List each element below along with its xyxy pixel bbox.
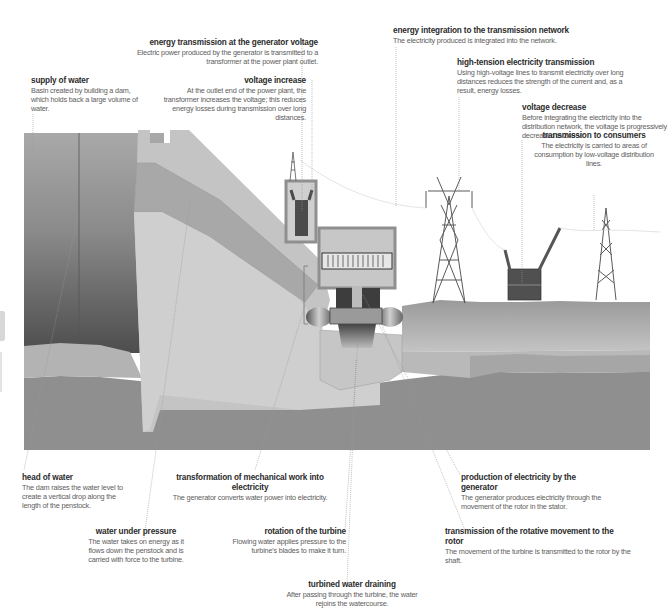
label-production-electricity: production of electricity by the generat… xyxy=(461,473,611,511)
label-title: voltage increase xyxy=(150,76,306,86)
label-desc: The electricity produced is integrated i… xyxy=(393,36,573,45)
label-transmission-consumers: transmission to consumers The electricit… xyxy=(530,131,658,168)
label-title: rotation of the turbine xyxy=(228,527,346,537)
label-desc: Basin created by building a dam, which h… xyxy=(31,86,143,113)
ground-right xyxy=(402,300,650,378)
label-desc: Using high-voltage lines to transmit ele… xyxy=(457,68,635,95)
label-desc: At the outlet end of the power plant, th… xyxy=(150,86,306,122)
transformer-house xyxy=(286,181,316,242)
label-title: voltage decrease xyxy=(522,103,672,113)
label-title: energy integration to the transmission n… xyxy=(393,26,573,36)
scroll-case-left xyxy=(306,307,332,327)
label-title: high-tension electricity transmission xyxy=(457,58,635,68)
label-voltage-increase: voltage increase At the outlet end of th… xyxy=(150,76,306,122)
label-title: supply of water xyxy=(31,76,143,86)
generator xyxy=(322,253,392,269)
high-tension-pylon xyxy=(426,177,472,303)
label-turbined-water: turbined water draining After passing th… xyxy=(280,580,424,608)
step-down-transformer xyxy=(505,228,560,300)
label-transmission-rotative: transmission of the rotative movement to… xyxy=(445,527,631,565)
label-title: head of water xyxy=(22,473,126,483)
label-desc: The water takes on energy as it flows do… xyxy=(86,537,186,564)
small-pylon xyxy=(290,152,296,181)
label-desc: Flowing water applies pressure to the tu… xyxy=(228,537,346,555)
label-rotation-turbine: rotation of the turbine Flowing water ap… xyxy=(228,527,346,555)
label-high-tension: high-tension electricity transmission Us… xyxy=(457,58,635,95)
label-transformation-mechanical: transformation of mechanical work into e… xyxy=(160,473,340,502)
label-desc: The movement of the turbine is transmitt… xyxy=(445,547,631,565)
turbine xyxy=(330,308,382,324)
label-energy-integration: energy integration to the transmission n… xyxy=(393,26,573,45)
label-title: transformation of mechanical work into e… xyxy=(160,473,340,493)
label-desc: Electric power produced by the generator… xyxy=(122,48,318,66)
label-head-of-water: head of water The dam raises the water l… xyxy=(22,473,126,510)
label-energy-transmission-generator: energy transmission at the generator vol… xyxy=(122,38,318,66)
label-desc: The generator produces electricity throu… xyxy=(461,493,611,511)
label-desc: The generator converts water power into … xyxy=(160,493,340,502)
label-title: water under pressure xyxy=(86,527,186,537)
draft-tube xyxy=(338,324,376,348)
label-title: transmission of the rotative movement to… xyxy=(445,527,631,547)
label-title: transmission to consumers xyxy=(530,131,658,141)
label-water-under-pressure: water under pressure The water takes on … xyxy=(86,527,186,564)
label-desc: After passing through the turbine, the w… xyxy=(280,590,424,608)
label-supply-of-water: supply of water Basin created by buildin… xyxy=(31,76,143,113)
label-desc: The dam raises the water level to create… xyxy=(22,483,126,510)
label-title: energy transmission at the generator vol… xyxy=(122,38,318,48)
label-title: turbined water draining xyxy=(280,580,424,590)
label-title: production of electricity by the generat… xyxy=(461,473,611,493)
shaft xyxy=(352,286,362,310)
label-desc: The electricity is carried to areas of c… xyxy=(530,141,658,168)
distribution-tower xyxy=(596,208,616,300)
